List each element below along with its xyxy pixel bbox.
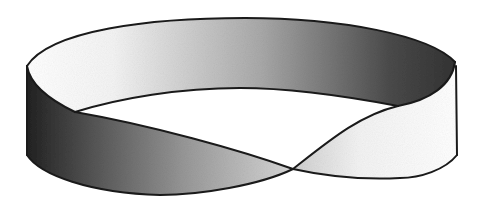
- mobius-strip-figure: [0, 0, 478, 205]
- mobius-strip-illustration: [0, 0, 478, 205]
